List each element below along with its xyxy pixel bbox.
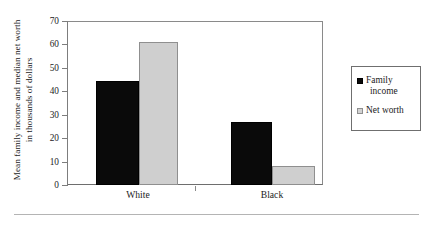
legend-swatch-dark-square-icon xyxy=(357,78,363,84)
y-tick-label-30: 30 xyxy=(50,111,59,120)
y-tick-label-20: 20 xyxy=(50,134,59,143)
bottom-divider-rule xyxy=(14,214,419,215)
y-axis-title: Mean family income and median net worth … xyxy=(0,0,46,200)
y-axis-title-line-1: Mean family income and median net worth xyxy=(12,20,24,181)
legend-label-net-worth-line-1: Net worth xyxy=(366,105,404,115)
y-tick-label-0: 0 xyxy=(54,181,59,190)
bar-white-net-worth xyxy=(139,42,178,185)
y-tick-label-40: 40 xyxy=(50,87,59,96)
bar-chart-figure: Mean family income and median net worth … xyxy=(0,0,433,225)
bar-black-family-income xyxy=(231,122,272,185)
x-tick-label-black: Black xyxy=(242,190,302,200)
bar-black-net-worth xyxy=(272,166,315,185)
x-axis-center-tick xyxy=(195,186,196,191)
y-tick-label-70: 70 xyxy=(50,17,59,26)
y-axis-title-line-2: in thousands of dollars xyxy=(23,20,35,181)
y-tick-label-60: 60 xyxy=(50,40,59,49)
legend-label-net-worth: Net worth xyxy=(366,105,404,116)
legend-item-net-worth: Net worth xyxy=(357,105,404,116)
x-tick-label-white: White xyxy=(108,190,168,200)
bars-layer xyxy=(68,22,322,185)
y-tick-label-50: 50 xyxy=(50,64,59,73)
legend-swatch-gray-square-icon xyxy=(357,108,363,114)
legend-label-family-income-line-1: Family xyxy=(366,75,393,85)
legend-item-family-income: Family income xyxy=(357,75,398,96)
chart-legend: Family income Net worth xyxy=(351,66,421,131)
legend-label-family-income: Family income xyxy=(366,75,398,96)
bar-white-family-income xyxy=(96,81,139,185)
y-tick-label-10: 10 xyxy=(50,158,59,167)
legend-label-family-income-line-2: income xyxy=(366,86,398,97)
